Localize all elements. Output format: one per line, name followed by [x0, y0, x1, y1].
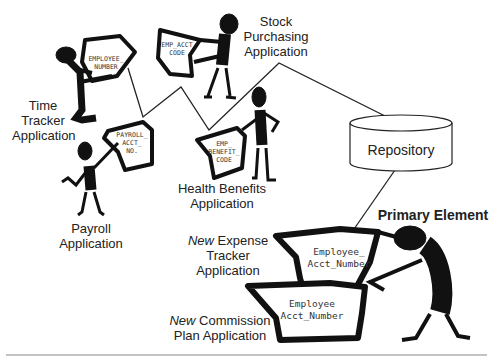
element-expense-employee-acct-number: Employee_ Acct_Number: [305, 246, 373, 270]
label-repository: Repository: [356, 143, 446, 158]
label-time-tracker: Time Tracker Application: [12, 98, 74, 143]
label-new-expense-tracker: New Expense Tracker Application: [186, 233, 270, 278]
label-payroll: Payroll Application: [58, 221, 124, 251]
label-health-benefits: Health Benefits Application: [170, 181, 274, 211]
element-commission-employee-acct-number: Employee Acct_Number: [276, 298, 348, 322]
figure-primary-element-icon: [370, 226, 470, 340]
element-emp-acct-code: EMP_ACCT CODE: [157, 41, 197, 57]
label-stock-purchasing: Stock Purchasing Application: [238, 14, 314, 59]
figure-health-benefits-icon: [242, 87, 278, 180]
figure-payroll-icon: [62, 142, 118, 215]
element-emp-benefit-code: EMP_ BENEFIT_ CODE: [206, 140, 242, 164]
figure-stock-purchasing-icon: [194, 14, 238, 98]
label-new-commission-plan: New Commission Plan Application: [168, 313, 272, 343]
element-payroll-acct-no: PAYROLL_ ACCT_ NO.: [113, 131, 151, 155]
element-employee-number: EMPLOYEE_ NUMBER: [87, 55, 125, 71]
label-primary-element: Primary Element: [374, 208, 492, 223]
